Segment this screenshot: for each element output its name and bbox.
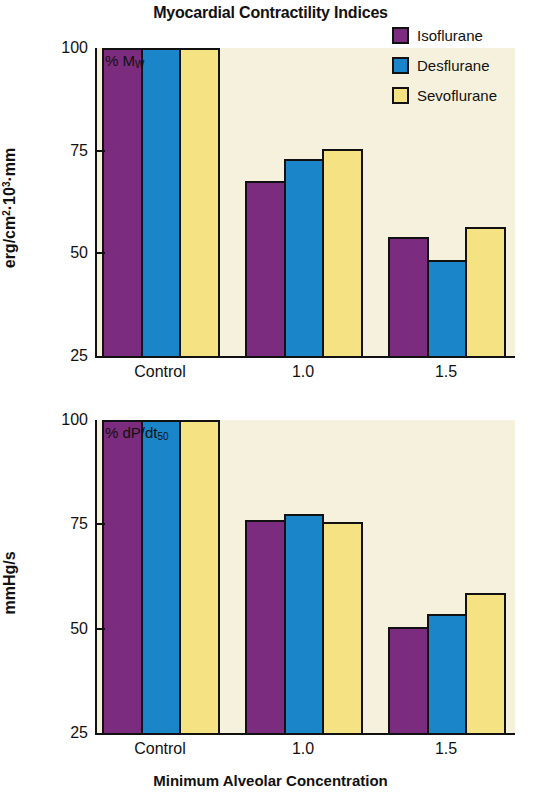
y-axis-label-part1: erg/cm <box>1 216 18 268</box>
y-axis-tick-mark <box>97 252 105 254</box>
bar-group: Control <box>102 48 218 356</box>
panel-note-text: % M <box>105 52 135 69</box>
bar-isoflurane-control <box>102 48 143 356</box>
x-axis-tick-label: Control <box>134 363 186 381</box>
y-axis-tick-label: 25 <box>70 724 97 742</box>
bar-sevoflurane-control <box>179 48 220 356</box>
legend-item-label: Desflurane <box>417 57 490 74</box>
panel-note-sub: 50 <box>158 431 169 442</box>
y-axis-tick-label: 25 <box>70 347 97 365</box>
bar-desflurane-control <box>141 48 182 356</box>
bar-isoflurane-1-0 <box>245 181 286 356</box>
bar-desflurane-1-5 <box>427 260 468 357</box>
y-axis-tick-mark <box>97 628 105 630</box>
bar-sevoflurane-control <box>179 420 220 733</box>
bar-isoflurane-control <box>102 420 143 733</box>
y-axis-tick-label: 75 <box>70 515 97 533</box>
y-axis-tick-label: 100 <box>61 411 97 429</box>
y-axis-label-mw: erg/cm2·103·mm <box>1 108 19 308</box>
bar-desflurane-1-5 <box>427 614 468 733</box>
legend-item-isoflurane[interactable]: Isoflurane <box>392 20 497 50</box>
chart-panel-dpdt: % dP/dt50 Control1.01.5 100755025 mmHg/s <box>0 410 541 755</box>
bar-desflurane-1-0 <box>284 159 325 356</box>
y-axis-label-sup1: 2 <box>1 210 12 216</box>
x-axis-tick-label: Control <box>134 740 186 758</box>
legend-item-sevoflurane[interactable]: Sevoflurane <box>392 80 497 110</box>
legend-item-desflurane[interactable]: Desflurane <box>392 50 497 80</box>
plot-area-dpdt: % dP/dt50 Control1.01.5 100755025 <box>95 420 515 735</box>
y-axis-label-sup2: 3 <box>1 182 12 188</box>
bar-group: 1.0 <box>245 48 361 356</box>
panel-note-text: % dP/dt <box>105 424 158 441</box>
legend-item-label: Sevoflurane <box>417 87 497 104</box>
x-axis-tick-label: 1.5 <box>435 740 457 758</box>
panel-note-dpdt: % dP/dt50 <box>105 424 169 442</box>
y-axis-label-dpdt: mmHg/s <box>1 483 19 683</box>
panel-note-mw: % MW <box>105 52 144 70</box>
x-axis-tick-label: 1.0 <box>292 363 314 381</box>
bar-group: Control <box>102 420 218 733</box>
y-axis-tick-label: 100 <box>61 39 97 57</box>
bar-group: 1.5 <box>388 420 504 733</box>
y-axis-tick-label: 50 <box>70 244 97 262</box>
x-axis-tick-label: 1.0 <box>292 740 314 758</box>
bar-sevoflurane-1-0 <box>322 522 363 733</box>
bar-isoflurane-1-5 <box>388 237 429 356</box>
legend-swatch-icon <box>392 87 409 104</box>
bar-isoflurane-1-5 <box>388 627 429 733</box>
y-axis-label-part3: ·mm <box>1 148 18 182</box>
bar-sevoflurane-1-0 <box>322 149 363 356</box>
figure-root: Myocardial Contractility Indices % MW Co… <box>0 0 541 801</box>
bar-group: 1.0 <box>245 420 361 733</box>
y-axis-tick-label: 50 <box>70 620 97 638</box>
legend-swatch-icon <box>392 27 409 44</box>
legend: IsofluraneDesfluraneSevoflurane <box>392 20 497 110</box>
bar-sevoflurane-1-5 <box>465 227 506 356</box>
legend-swatch-icon <box>392 57 409 74</box>
x-axis-title: Minimum Alveolar Concentration <box>0 772 541 789</box>
legend-item-label: Isoflurane <box>417 27 483 44</box>
bar-groups-dpdt: Control1.01.5 <box>97 420 515 733</box>
y-axis-tick-label: 75 <box>70 142 97 160</box>
bar-desflurane-1-0 <box>284 514 325 733</box>
y-axis-tick-mark <box>97 150 105 152</box>
y-axis-tick-mark <box>97 523 105 525</box>
x-axis-tick-label: 1.5 <box>435 363 457 381</box>
y-axis-label-part2: ·10 <box>1 187 18 210</box>
bar-isoflurane-1-0 <box>245 520 286 733</box>
bar-sevoflurane-1-5 <box>465 593 506 733</box>
bar-desflurane-control <box>141 420 182 733</box>
panel-note-sub: W <box>135 59 144 70</box>
